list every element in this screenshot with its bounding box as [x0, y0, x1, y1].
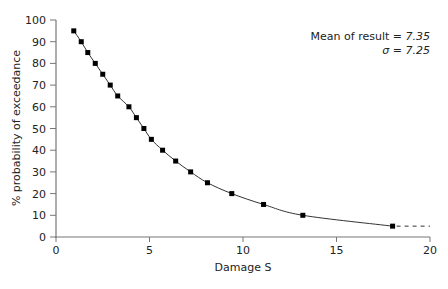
y-tick-label: 60	[32, 101, 46, 114]
data-point-marker	[160, 148, 165, 153]
data-point-marker	[390, 224, 395, 229]
y-tick-label: 50	[32, 123, 46, 136]
data-point-marker	[93, 61, 98, 66]
mean-value: 7.35	[406, 30, 431, 43]
data-point-marker	[300, 213, 305, 218]
data-point-marker	[79, 39, 84, 44]
data-point-marker	[229, 191, 234, 196]
data-point-marker	[188, 169, 193, 174]
data-point-marker	[108, 83, 113, 88]
x-tick-label: 0	[53, 244, 60, 257]
x-tick-label: 15	[330, 244, 344, 257]
data-point-marker	[173, 159, 178, 164]
y-tick-label: 10	[32, 209, 46, 222]
data-point-marker	[134, 115, 139, 120]
x-tick-label: 5	[146, 244, 153, 257]
y-tick-label: 40	[32, 144, 46, 157]
data-point-marker	[126, 104, 131, 109]
data-point-marker	[141, 126, 146, 131]
data-point-marker	[115, 93, 120, 98]
data-point-marker	[71, 28, 76, 33]
x-axis-label: Damage S	[215, 261, 272, 274]
y-tick-label: 100	[25, 14, 46, 27]
mean-label: Mean of result =	[311, 30, 406, 43]
y-tick-label: 90	[32, 36, 46, 49]
y-tick-label: 80	[32, 57, 46, 70]
data-point-marker	[261, 202, 266, 207]
y-tick-label: 30	[32, 166, 46, 179]
data-point-marker	[205, 180, 210, 185]
sigma-annotation: σ = 7.25	[382, 44, 430, 57]
mean-annotation: Mean of result = 7.35	[311, 30, 430, 43]
y-tick-label: 70	[32, 79, 46, 92]
data-point-marker	[100, 72, 105, 77]
sigma-eq: =	[389, 44, 405, 57]
series-line	[74, 31, 393, 226]
y-tick-label: 20	[32, 188, 46, 201]
chart-canvas: 010203040506070809010005101520 Damage S …	[0, 0, 448, 289]
x-tick-label: 10	[236, 244, 250, 257]
y-tick-label: 0	[39, 231, 46, 244]
plot-area	[71, 28, 430, 228]
y-axis-label: % probability of exceedance	[10, 50, 23, 206]
data-point-marker	[85, 50, 90, 55]
exceedance-chart: 010203040506070809010005101520 Damage S …	[0, 0, 448, 289]
data-point-marker	[149, 137, 154, 142]
sigma-value: 7.25	[406, 44, 431, 57]
x-tick-label: 20	[423, 244, 437, 257]
